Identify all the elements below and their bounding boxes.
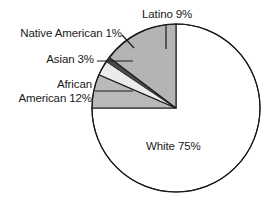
slice-label-latino: Latino 9% bbox=[142, 8, 192, 22]
slice-label-white: White 75% bbox=[146, 140, 201, 154]
slice-label-native-american: Native American 1% bbox=[0, 27, 122, 41]
slice-label-african-american-line1: African bbox=[0, 78, 92, 92]
pie-chart-figure: Latino 9% Native American 1% Asian 3% Af… bbox=[0, 0, 269, 210]
slice-label-african-american-line2: American 12% bbox=[0, 92, 92, 106]
slice-label-asian: Asian 3% bbox=[0, 53, 94, 67]
